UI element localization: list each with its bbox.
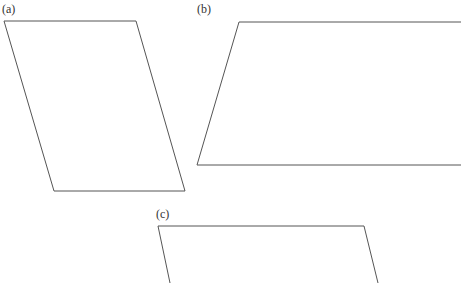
parallelogram-b — [197, 22, 461, 165]
diagram-canvas — [0, 0, 461, 283]
parallelogram-c — [158, 226, 378, 283]
parallelogram-a — [4, 21, 185, 191]
